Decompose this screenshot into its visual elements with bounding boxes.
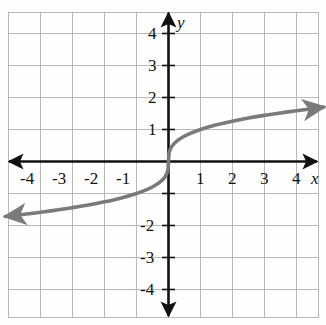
y-tick-label-3: 3: [148, 57, 157, 74]
x-tick-label--3: -3: [52, 170, 66, 187]
x-tick-label--1: -1: [116, 170, 130, 187]
x-tick-label--4: -4: [20, 170, 34, 187]
y-axis-label: y: [177, 14, 185, 31]
y-tick-label-1: 1: [148, 121, 157, 138]
x-tick-label-2: 2: [228, 170, 237, 187]
x-tick-label-1: 1: [196, 170, 205, 187]
graph-figure: -4 -3 -2 -1 1 2 3 4 4 3 2 1 -2 -3 -4 x y: [0, 0, 326, 325]
y-tick-label--4: -4: [140, 281, 154, 298]
x-tick-label-3: 3: [260, 170, 269, 187]
y-tick-label--3: -3: [140, 249, 154, 266]
y-tick-label-4: 4: [148, 25, 157, 42]
x-tick-label--2: -2: [84, 170, 98, 187]
x-axis-label: x: [311, 170, 319, 187]
y-tick-label--2: -2: [140, 217, 154, 234]
coordinate-plane-svg: [0, 0, 326, 325]
y-tick-label-2: 2: [148, 89, 157, 106]
x-tick-label-4: 4: [292, 170, 301, 187]
